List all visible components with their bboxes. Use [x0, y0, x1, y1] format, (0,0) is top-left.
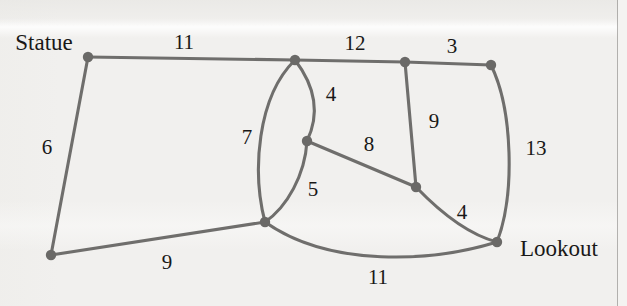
node-place-label: Lookout: [520, 237, 598, 260]
edge-weight-label: 8: [364, 134, 375, 155]
graph-edge: [88, 57, 295, 60]
edge-weight-label: 9: [162, 252, 173, 273]
edge-weight-label: 4: [326, 84, 337, 105]
graph-edge: [405, 62, 491, 65]
graph-node: [486, 60, 496, 70]
edge-weight-label: 9: [429, 111, 440, 132]
edge-weight-label: 6: [42, 137, 53, 158]
graph-edge: [295, 60, 314, 141]
graph-node: [492, 237, 502, 247]
edge-weight-label: 13: [526, 138, 547, 159]
edge-weight-label: 12: [345, 33, 366, 54]
page-gutter-edge: [618, 0, 627, 306]
graph-edge: [307, 141, 416, 187]
graph-node: [411, 182, 421, 192]
figure-canvas: 11123647981359411StatueLookout: [0, 0, 627, 306]
graph-node: [302, 136, 312, 146]
graph-node: [400, 57, 410, 67]
graph-node: [46, 250, 56, 260]
graph-edge: [491, 65, 509, 242]
edge-weight-label: 3: [447, 36, 458, 57]
edge-weight-label: 5: [308, 179, 319, 200]
edge-weight-label: 7: [242, 127, 253, 148]
graph-node: [260, 217, 270, 227]
graph-edge: [51, 57, 88, 255]
edge-weight-label: 4: [457, 202, 468, 223]
edge-weight-label: 11: [174, 32, 194, 53]
graph-edge: [265, 141, 307, 222]
node-place-label: Statue: [15, 31, 73, 54]
graph-node: [83, 52, 93, 62]
graph-edge: [295, 60, 405, 62]
graph-edge: [51, 222, 265, 255]
edges-group: [51, 57, 509, 257]
graph-node: [290, 55, 300, 65]
edge-weight-label: 11: [368, 267, 388, 288]
graph-edge: [405, 62, 416, 187]
